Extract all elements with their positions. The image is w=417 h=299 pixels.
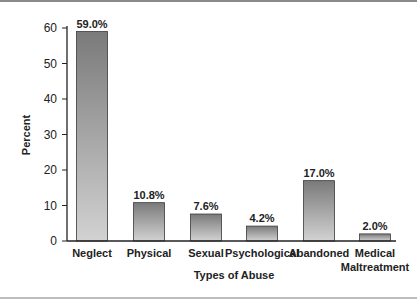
y-tick-label: 40 (44, 92, 58, 106)
bar-psychological (247, 226, 278, 241)
category-label: Abandoned (289, 247, 350, 259)
category-label: Medical (355, 247, 395, 259)
category-label: Neglect (72, 247, 112, 259)
y-axis: 0102030405060 (44, 21, 67, 248)
bar-abandoned (304, 181, 335, 241)
bar-sexual (191, 214, 222, 241)
y-tick-label: 20 (44, 163, 58, 177)
y-tick-label: 0 (50, 234, 57, 248)
y-tick-label: 30 (44, 128, 58, 142)
value-label: 59.0% (76, 18, 107, 30)
y-tick-label: 10 (44, 199, 58, 213)
y-tick-label: 60 (44, 21, 58, 35)
value-label: 4.2% (249, 212, 274, 224)
y-tick-label: 50 (44, 57, 58, 71)
category-label: Maltreatment (341, 261, 410, 273)
category-label: Physical (127, 247, 172, 259)
bar-neglect (77, 32, 108, 241)
bar-chart: 0102030405060 59.0%10.8%7.6%4.2%17.0%2.0… (0, 0, 417, 299)
value-label: 10.8% (133, 189, 164, 201)
bar-physical (134, 203, 165, 241)
y-axis-title: Percent (20, 114, 32, 155)
category-label: Sexual (188, 247, 223, 259)
bars: 59.0%10.8%7.6%4.2%17.0%2.0% (76, 18, 390, 241)
value-label: 17.0% (303, 167, 334, 179)
value-label: 2.0% (362, 220, 387, 232)
value-label: 7.6% (193, 200, 218, 212)
x-axis-title: Types of Abuse (194, 269, 275, 281)
bar-medical-maltreatment (360, 234, 391, 241)
